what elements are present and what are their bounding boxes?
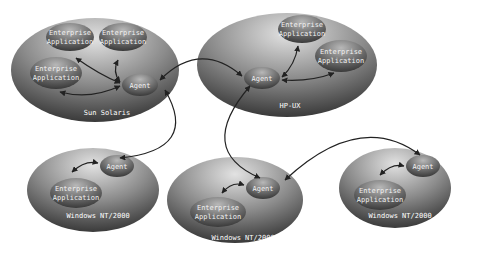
svg-text:Enterprise: Enterprise (35, 65, 77, 73)
svg-text:Agent: Agent (251, 75, 272, 83)
svg-text:Enterprise: Enterprise (49, 29, 91, 37)
svg-text:Application: Application (53, 194, 99, 202)
enterprise-app-node (50, 178, 102, 208)
svg-text:Enterprise: Enterprise (197, 204, 239, 212)
enterprise-app-node (354, 180, 406, 210)
svg-text:Enterprise: Enterprise (281, 21, 323, 29)
platform-windows-nt-3: Agent Enterprise Application Windows NT/… (339, 148, 451, 228)
svg-text:Enterprise: Enterprise (359, 187, 401, 195)
svg-text:Enterprise: Enterprise (102, 29, 144, 37)
svg-text:Application: Application (33, 74, 79, 82)
platform-windows-nt-1: Agent Enterprise Application Windows NT/… (27, 148, 159, 232)
svg-text:Agent: Agent (106, 163, 127, 171)
svg-text:Enterprise: Enterprise (55, 185, 97, 193)
svg-text:Enterprise: Enterprise (320, 48, 362, 56)
svg-text:Sun Solaris: Sun Solaris (84, 109, 130, 117)
platform-windows-nt-2: Agent Enterprise Application Windows NT/… (167, 157, 303, 243)
svg-text:Application: Application (318, 57, 364, 65)
enterprise-app-node (278, 15, 326, 43)
svg-text:Application: Application (100, 38, 146, 46)
platform-sun-solaris: Enterprise Application Enterprise Applic… (11, 18, 179, 122)
svg-text:Application: Application (279, 30, 325, 38)
enterprise-app-node (315, 40, 367, 72)
enterprise-app-node (99, 23, 147, 51)
agent-network-diagram: Enterprise Application Enterprise Applic… (0, 0, 486, 265)
svg-text:Application: Application (47, 38, 93, 46)
svg-text:Application: Application (357, 196, 403, 204)
platform-hp-ux: Enterprise Application Enterprise Applic… (197, 13, 377, 117)
svg-text:Windows NT/2000: Windows NT/2000 (66, 212, 129, 220)
enterprise-app-node (190, 197, 246, 227)
svg-text:Windows NT/2000: Windows NT/2000 (368, 212, 431, 220)
svg-text:Agent: Agent (412, 163, 433, 171)
svg-text:Agent: Agent (129, 82, 150, 90)
svg-text:Windows NT/2000: Windows NT/2000 (211, 234, 274, 242)
enterprise-app-node (46, 23, 94, 51)
svg-text:Agent: Agent (252, 185, 273, 193)
svg-text:Application: Application (195, 213, 241, 221)
diagram-canvas: Enterprise Application Enterprise Applic… (0, 0, 486, 265)
enterprise-app-node (30, 57, 82, 89)
svg-text:HP-UX: HP-UX (279, 102, 301, 110)
